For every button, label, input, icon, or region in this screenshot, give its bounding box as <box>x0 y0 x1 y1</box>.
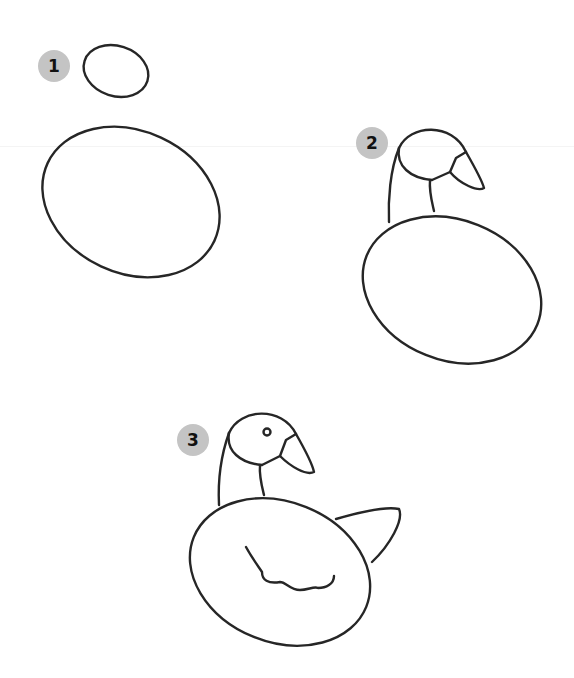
step-2-neck-right <box>430 180 434 211</box>
step-3-drawing <box>168 414 400 672</box>
step-3-body-oval <box>168 472 393 671</box>
drawing-tutorial-canvas: 1 2 3 <box>0 0 574 678</box>
step-2-head-bottom <box>399 148 432 180</box>
step-1-drawing <box>18 37 245 305</box>
step-3-head-bottom <box>229 433 262 465</box>
step-3-tail <box>336 508 400 562</box>
step-1-head-oval <box>77 37 155 105</box>
step-1-body-oval <box>18 99 245 305</box>
step-2-head-top <box>399 130 466 152</box>
step-3-eye-icon <box>264 429 271 436</box>
step-2-neck-left <box>389 148 399 222</box>
step-2-beak-base <box>432 152 466 180</box>
step-3-wing <box>246 547 334 590</box>
step-2-drawing <box>340 130 563 390</box>
drawing-strokes <box>0 0 574 678</box>
step-3-neck-left <box>219 433 229 505</box>
step-3-beak-base <box>262 434 296 465</box>
step-3-neck-right <box>260 465 264 495</box>
step-2-body-oval <box>340 191 563 390</box>
